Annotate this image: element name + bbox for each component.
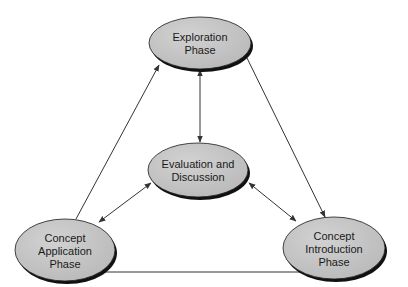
label-line: Phase bbox=[172, 44, 227, 57]
label-line: Phase bbox=[38, 258, 92, 271]
node-label-application: Concept Application Phase bbox=[38, 232, 92, 271]
node-label-introduction: Concept Introduction Phase bbox=[305, 230, 362, 269]
node-label-exploration: Exploration Phase bbox=[172, 31, 227, 57]
label-line: Exploration bbox=[172, 31, 227, 44]
label-line: Application bbox=[38, 245, 92, 258]
label-line: Phase bbox=[305, 256, 362, 269]
label-line: Introduction bbox=[305, 243, 362, 256]
label-line: Discussion bbox=[162, 171, 235, 184]
arrow-application-exploration bbox=[76, 65, 159, 219]
learning-cycle-diagram: Exploration Phase Evaluation and Discuss… bbox=[0, 0, 408, 287]
node-label-evaluation: Evaluation and Discussion bbox=[162, 158, 235, 184]
arrow-evaluation-introduction bbox=[249, 183, 296, 221]
label-line: Evaluation and bbox=[162, 158, 235, 171]
arrow-exploration-introduction bbox=[247, 58, 325, 217]
arrow-evaluation-application bbox=[99, 183, 151, 222]
label-line: Concept bbox=[38, 232, 92, 245]
label-line: Concept bbox=[305, 230, 362, 243]
